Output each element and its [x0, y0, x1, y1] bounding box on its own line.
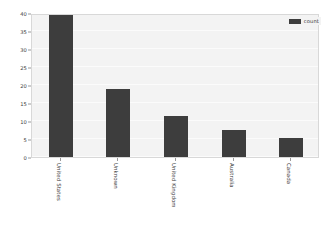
- bar: [106, 89, 130, 157]
- x-tick-mark: [175, 158, 176, 161]
- legend-label-count: count: [304, 18, 319, 24]
- x-tick-label: Australia: [229, 163, 235, 188]
- legend: count: [287, 17, 321, 25]
- bar: [164, 116, 188, 157]
- x-tick-mark: [233, 158, 234, 161]
- y-tick-label: 30: [20, 47, 27, 53]
- bar: [222, 130, 246, 157]
- y-axis: 0510152025303540: [0, 14, 31, 158]
- x-tick-mark: [117, 158, 118, 161]
- y-tick-label: 40: [20, 11, 27, 17]
- y-tick-label: 5: [24, 137, 27, 143]
- legend-swatch-count: [289, 19, 301, 24]
- bar-chart-figure: 0510152025303540 United StatesUnknownUni…: [0, 0, 330, 227]
- plot-area: [31, 14, 319, 158]
- x-tick-label: Canada: [286, 163, 292, 184]
- bar: [279, 138, 303, 157]
- y-tick-label: 35: [20, 29, 27, 35]
- y-tick-label: 20: [20, 83, 27, 89]
- y-tick-label: 0: [24, 155, 27, 161]
- bar: [49, 14, 73, 157]
- x-tick-mark: [290, 158, 291, 161]
- x-tick-label: United States: [56, 163, 62, 201]
- x-tick-mark: [60, 158, 61, 161]
- y-tick-label: 25: [20, 65, 27, 71]
- y-tick-label: 15: [20, 101, 27, 107]
- x-tick-label: Unknown: [113, 163, 119, 189]
- x-axis: United StatesUnknownUnited KingdomAustra…: [31, 158, 319, 224]
- bar-series-count: [32, 15, 318, 157]
- y-tick-label: 10: [20, 119, 27, 125]
- x-tick-label: United Kingdom: [171, 163, 177, 208]
